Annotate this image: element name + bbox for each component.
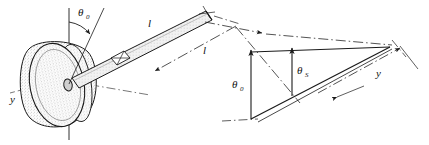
theta-s-vector-subscript: S	[305, 71, 309, 79]
theta-zero-vector-symbol: θ	[232, 78, 238, 90]
theta-zero-disk-subscript: 0	[86, 13, 90, 21]
theta-zero-vector-subscript: 0	[240, 85, 244, 93]
diagram-canvas: θ 0 l l y θ 0 θ S y	[0, 0, 429, 145]
y-axis-label: y	[9, 93, 15, 105]
rod-length-dimension-label: l	[203, 44, 206, 56]
y-dimension-label: y	[375, 67, 381, 79]
theta-zero-disk-symbol: θ	[78, 6, 84, 18]
theta-s-vector-symbol: θ	[297, 64, 303, 76]
rod-length-label: l	[148, 17, 151, 29]
technical-diagram: θ 0 l l y θ 0 θ S y	[0, 0, 429, 145]
